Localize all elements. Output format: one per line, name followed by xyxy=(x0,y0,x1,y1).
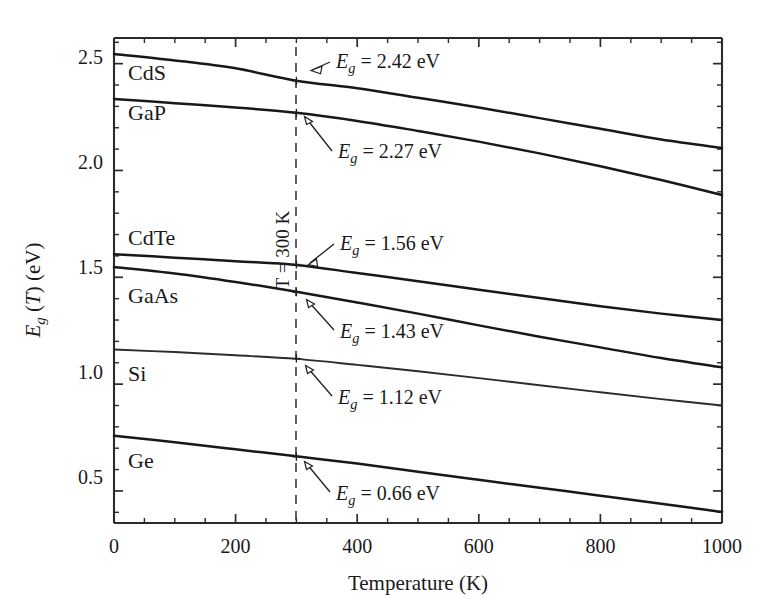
svg-text:T = 300 K: T = 300 K xyxy=(272,210,293,289)
y-tick-label-2-0: 2.0 xyxy=(78,151,103,173)
x-tick-label-200: 200 xyxy=(221,535,251,557)
x-tick-label-800: 800 xyxy=(585,535,615,557)
series-label-cdte: CdTe xyxy=(128,225,175,250)
y-tick-label-0-5: 0.5 xyxy=(78,466,103,488)
annotation-cdte-value: = 1.56 eV xyxy=(359,232,444,254)
series-label-gap: GaP xyxy=(128,100,166,125)
x-tick-label-400: 400 xyxy=(342,535,372,557)
annotation-gap-symbol: E xyxy=(337,140,350,162)
annotation-gaas-sub: g xyxy=(352,330,359,346)
y-axis-title-rest: ( xyxy=(21,305,45,317)
series-label-ge: Ge xyxy=(128,448,154,473)
annotation-si-value: = 1.12 eV xyxy=(357,386,442,408)
annotation-gaas-symbol: E xyxy=(339,320,352,342)
series-label-gaas: GaAs xyxy=(128,283,178,308)
series-label-cds: CdS xyxy=(128,60,166,85)
y-axis-title-unit: ) (eV) xyxy=(21,242,45,293)
annotation-gap-value: = 2.27 eV xyxy=(357,140,442,162)
x-tick-label-1000: 1000 xyxy=(702,535,742,557)
y-tick-label-1-5: 1.5 xyxy=(78,256,103,278)
x-tick-label-600: 600 xyxy=(464,535,494,557)
annotation-cds-sub: g xyxy=(348,60,355,76)
annotation-gap-sub: g xyxy=(350,150,357,166)
series-label-si: Si xyxy=(128,361,146,386)
bandgap-vs-temperature-figure: 0 200 400 600 800 1000 2.5 2.0 1.5 1.0 0… xyxy=(0,0,777,606)
y-axis-title-symbol: E xyxy=(21,325,45,339)
annotation-cds-value: = 2.42 eV xyxy=(355,50,440,72)
y-tick-label-2-5: 2.5 xyxy=(78,46,103,68)
chart-svg: 0 200 400 600 800 1000 2.5 2.0 1.5 1.0 0… xyxy=(0,0,777,606)
annotation-ge-value: = 0.66 eV xyxy=(355,482,440,504)
reference-line-label: T = 300 K xyxy=(272,210,293,289)
y-tick-label-1-0: 1.0 xyxy=(78,361,103,383)
annotation-gaas-value: = 1.43 eV xyxy=(359,320,444,342)
x-axis-title: Temperature (K) xyxy=(348,571,488,595)
annotation-cds-symbol: E xyxy=(335,50,348,72)
annotation-cdte-sub: g xyxy=(352,242,359,258)
annotation-si-sub: g xyxy=(350,396,357,412)
figure-background xyxy=(0,0,777,606)
annotation-ge-symbol: E xyxy=(335,482,348,504)
annotation-ge-sub: g xyxy=(348,492,355,508)
annotation-si-symbol: E xyxy=(337,386,350,408)
annotation-cdte-symbol: E xyxy=(339,232,352,254)
x-tick-label-0: 0 xyxy=(109,535,119,557)
